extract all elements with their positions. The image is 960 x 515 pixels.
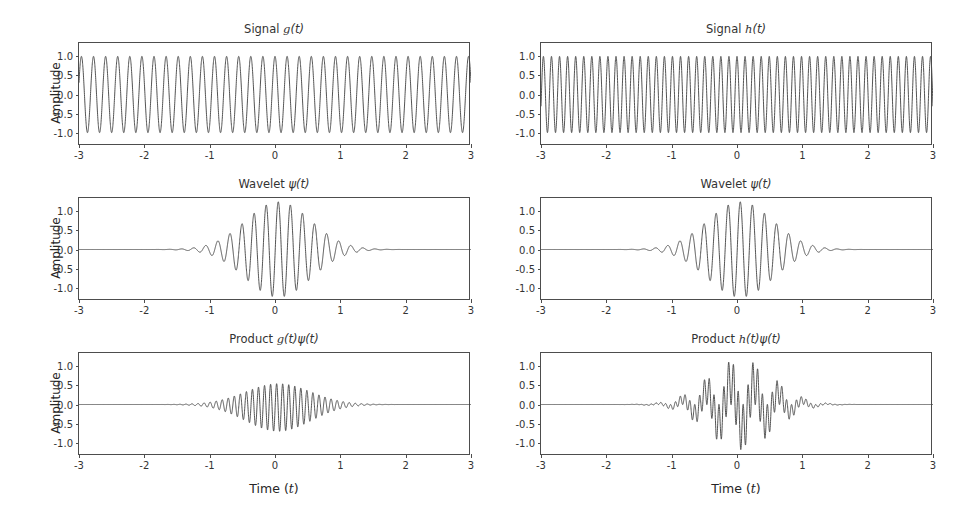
x-tick-label: -1: [667, 460, 677, 471]
x-tick-label: 0: [272, 150, 278, 161]
plot-title-signal-h: Signal h(t): [541, 22, 931, 36]
y-tick-label: 0.0: [519, 399, 535, 410]
x-tick-label: -3: [536, 460, 546, 471]
plot-frame-signal-g: Signal g(t)-1.0-0.50.00.51.0-3-2-10123: [78, 42, 470, 145]
plot-title-product-h: Product h(t)ψ(t): [541, 332, 931, 346]
y-tick-label: 1.0: [519, 361, 535, 372]
plot-panel-product-g: Product g(t)ψ(t)-1.0-0.50.00.51.0-3-2-10…: [78, 352, 470, 455]
x-axis-label-prefix: Time (: [711, 481, 750, 496]
x-tick-label: -3: [536, 305, 546, 316]
x-tickmark: [471, 299, 472, 303]
plot-frame-product-h: Product h(t)ψ(t)-1.0-0.50.00.51.0-3-2-10…: [540, 352, 932, 455]
y-tick-label: 1.0: [519, 206, 535, 217]
x-axis-label-suffix: ): [756, 481, 761, 496]
x-tick-label: 1: [337, 150, 343, 161]
x-axis-label: Time (t): [540, 481, 932, 496]
plot-panel-signal-g: Signal g(t)-1.0-0.50.00.51.0-3-2-10123Am…: [78, 42, 470, 145]
y-axis-label: Amplitude: [49, 198, 63, 298]
plot-panel-product-h: Product h(t)ψ(t)-1.0-0.50.00.51.0-3-2-10…: [540, 352, 932, 455]
plot-title-wavelet-r: Wavelet ψ(t): [541, 177, 931, 191]
plot-title-variable: h: [739, 332, 746, 346]
x-tick-label: 1: [799, 150, 805, 161]
x-tick-label: -3: [74, 150, 84, 161]
x-tick-label: 0: [272, 305, 278, 316]
series-line: [541, 362, 933, 449]
plot-panel-wavelet-l: Wavelet ψ(t)-1.0-0.50.00.51.0-3-2-10123A…: [78, 197, 470, 300]
x-tick-label: 2: [864, 460, 870, 471]
plot-title-signal-g: Signal g(t): [79, 22, 469, 36]
x-tick-label: 1: [799, 305, 805, 316]
plot-frame-product-g: Product g(t)ψ(t)-1.0-0.50.00.51.0-3-2-10…: [78, 352, 470, 455]
x-axis-label-prefix: Time (: [249, 481, 288, 496]
y-tick-label: 1.0: [519, 51, 535, 62]
x-tick-label: 3: [468, 460, 474, 471]
plot-title-prefix: Product: [691, 332, 738, 346]
x-axis-label: Time (t): [78, 481, 470, 496]
x-tick-label: -1: [205, 460, 215, 471]
series-line: [541, 202, 933, 297]
x-tick-label: 0: [734, 305, 740, 316]
x-tick-label: -1: [667, 150, 677, 161]
plot-curve-signal-g: [79, 43, 471, 146]
y-tick-label: -1.0: [515, 437, 535, 448]
series-line: [79, 202, 471, 297]
x-tick-label: -3: [74, 305, 84, 316]
x-tickmark: [933, 144, 934, 148]
y-tick-label: -0.5: [515, 418, 535, 429]
x-tick-label: 0: [272, 460, 278, 471]
y-tick-label: -1.0: [515, 282, 535, 293]
x-tick-label: 2: [402, 150, 408, 161]
plot-title-wavelet-l: Wavelet ψ(t): [79, 177, 469, 191]
plot-title-prefix: Product: [229, 332, 276, 346]
plot-title-prefix: Signal: [244, 22, 283, 36]
plot-title-suffix: (t)ψ(t): [284, 332, 319, 346]
x-tick-label: -2: [139, 305, 149, 316]
x-tick-label: -2: [139, 150, 149, 161]
y-tick-label: -0.5: [515, 108, 535, 119]
x-tick-label: 3: [468, 305, 474, 316]
plot-title-prefix: Wavelet: [700, 177, 750, 191]
x-tickmark: [471, 144, 472, 148]
plot-title-prefix: Wavelet: [238, 177, 288, 191]
x-tickmark: [933, 454, 934, 458]
y-tick-label: -1.0: [515, 127, 535, 138]
figure-canvas: Signal g(t)-1.0-0.50.00.51.0-3-2-10123Am…: [0, 0, 960, 515]
x-axis-label-suffix: ): [294, 481, 299, 496]
y-tick-label: -0.5: [515, 263, 535, 274]
y-tick-label: 0.0: [519, 244, 535, 255]
plot-frame-wavelet-l: Wavelet ψ(t)-1.0-0.50.00.51.0-3-2-10123: [78, 197, 470, 300]
plot-frame-wavelet-r: Wavelet ψ(t)-1.0-0.50.00.51.0-3-2-10123: [540, 197, 932, 300]
plot-title-prefix: Signal: [706, 22, 745, 36]
x-tick-label: 0: [734, 460, 740, 471]
x-tick-label: 2: [864, 305, 870, 316]
plot-curve-wavelet-l: [79, 198, 471, 301]
x-tick-label: -1: [667, 305, 677, 316]
plot-title-variable: ψ: [750, 177, 758, 191]
x-tick-label: -1: [205, 305, 215, 316]
y-tick-label: 0.0: [519, 89, 535, 100]
x-tick-label: -3: [74, 460, 84, 471]
plot-title-product-g: Product g(t)ψ(t): [79, 332, 469, 346]
plot-curve-product-g: [79, 353, 471, 456]
x-tick-label: 2: [402, 460, 408, 471]
x-tick-label: 3: [930, 460, 936, 471]
plot-title-suffix: (t)ψ(t): [746, 332, 781, 346]
y-axis-label: Amplitude: [49, 43, 63, 143]
series-line: [79, 56, 471, 132]
series-line: [79, 384, 471, 432]
plot-title-variable: ψ: [288, 177, 296, 191]
plot-title-suffix: (t): [758, 177, 771, 191]
plot-panel-wavelet-r: Wavelet ψ(t)-1.0-0.50.00.51.0-3-2-10123: [540, 197, 932, 300]
y-tick-label: 0.5: [519, 380, 535, 391]
plot-frame-signal-h: Signal h(t)-1.0-0.50.00.51.0-3-2-10123: [540, 42, 932, 145]
x-tick-label: 1: [799, 460, 805, 471]
x-tickmark: [933, 299, 934, 303]
x-tick-label: 2: [864, 150, 870, 161]
x-tick-label: -2: [601, 460, 611, 471]
x-tick-label: 1: [337, 460, 343, 471]
x-tick-label: 1: [337, 305, 343, 316]
x-tickmark: [471, 454, 472, 458]
x-tick-label: -2: [601, 305, 611, 316]
y-axis-label: Amplitude: [49, 353, 63, 453]
x-tick-label: -3: [536, 150, 546, 161]
